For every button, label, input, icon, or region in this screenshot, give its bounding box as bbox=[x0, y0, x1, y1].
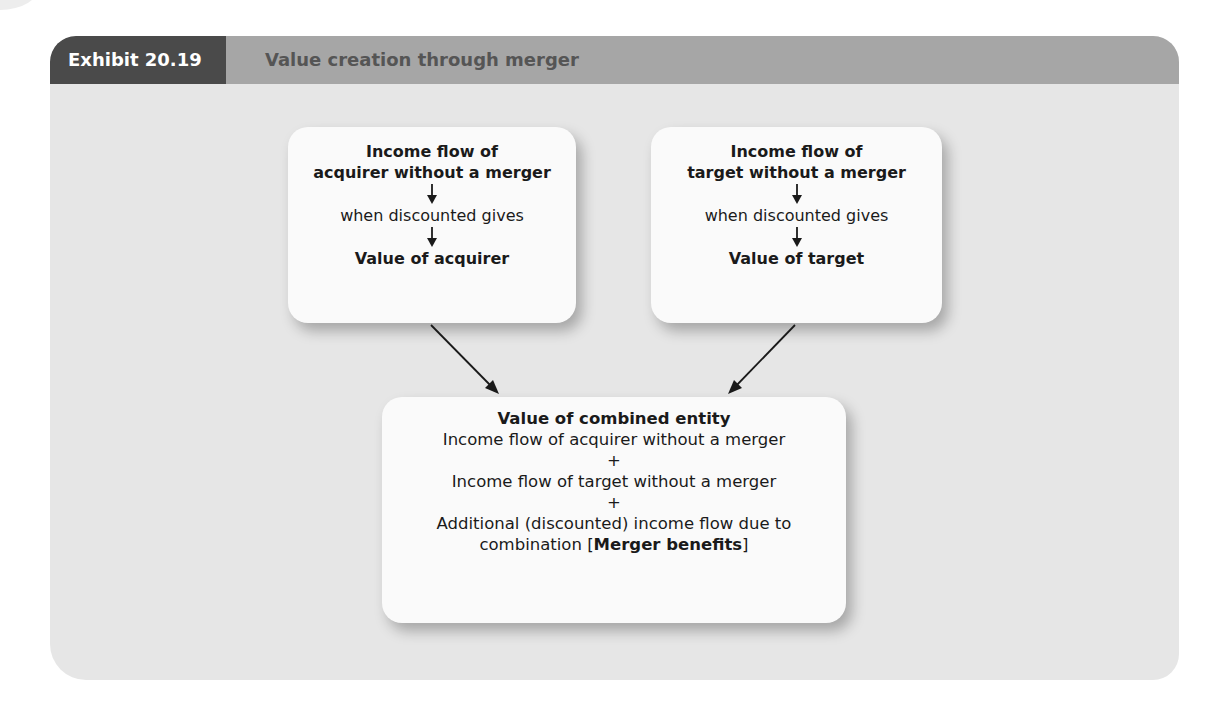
target-result: Value of target bbox=[651, 248, 942, 269]
target-value-box: Income flow of target without a merger w… bbox=[651, 127, 942, 323]
combined-entity-box: Value of combined entity Income flow of … bbox=[382, 397, 846, 623]
down-arrow-icon bbox=[425, 226, 439, 248]
target-heading-line2: target without a merger bbox=[651, 162, 942, 183]
plus-sign: + bbox=[382, 450, 846, 471]
exhibit-header: Exhibit 20.19 Value creation through mer… bbox=[50, 36, 1179, 84]
exhibit-number-label: Exhibit 20.19 bbox=[50, 36, 226, 84]
combined-target-flow: Income flow of target without a merger bbox=[382, 471, 846, 492]
exhibit-panel: Exhibit 20.19 Value creation through mer… bbox=[50, 36, 1179, 680]
diagonal-arrow-icon bbox=[728, 325, 795, 394]
exhibit-title: Value creation through merger bbox=[265, 36, 579, 84]
acquirer-heading-line2: acquirer without a merger bbox=[288, 162, 576, 183]
combined-heading: Value of combined entity bbox=[382, 408, 846, 429]
combined-merger-benefits-line: combination [Merger benefits] bbox=[382, 534, 846, 555]
down-arrow-icon bbox=[425, 183, 439, 205]
merger-benefits-prefix: combination [ bbox=[479, 535, 593, 554]
down-arrow-icon bbox=[790, 183, 804, 205]
down-arrow-icon bbox=[790, 226, 804, 248]
diagonal-arrow-icon bbox=[431, 325, 499, 394]
merger-benefits-suffix: ] bbox=[742, 535, 748, 554]
merger-benefits-label: Merger benefits bbox=[594, 535, 743, 554]
combined-additional-flow: Additional (discounted) income flow due … bbox=[382, 513, 846, 534]
acquirer-heading-line1: Income flow of bbox=[288, 141, 576, 162]
target-heading-line1: Income flow of bbox=[651, 141, 942, 162]
target-discount-step: when discounted gives bbox=[651, 205, 942, 226]
plus-sign: + bbox=[382, 492, 846, 513]
decorative-corner-arc bbox=[0, 0, 40, 10]
acquirer-discount-step: when discounted gives bbox=[288, 205, 576, 226]
acquirer-value-box: Income flow of acquirer without a merger… bbox=[288, 127, 576, 323]
acquirer-result: Value of acquirer bbox=[288, 248, 576, 269]
combined-acquirer-flow: Income flow of acquirer without a merger bbox=[382, 429, 846, 450]
